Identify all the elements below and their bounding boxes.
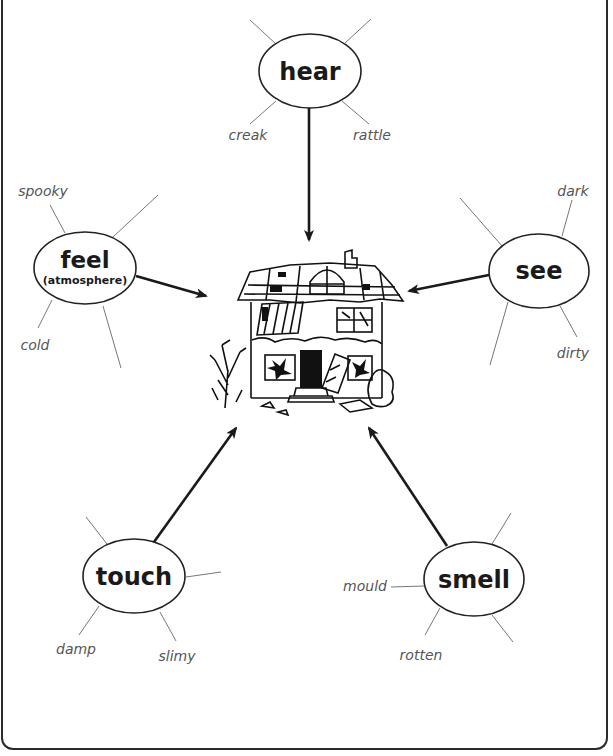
spoke	[113, 195, 158, 237]
spoke	[250, 101, 276, 124]
leaf-cold: cold	[20, 337, 49, 353]
roof-hole	[270, 285, 282, 292]
spoke	[345, 19, 371, 43]
broken-glass	[352, 359, 370, 378]
spoke	[425, 608, 440, 635]
spoke	[250, 20, 276, 44]
node-title-touch: touch	[96, 563, 172, 591]
spoke	[103, 306, 121, 368]
left-plant	[210, 340, 246, 408]
node-title-feel: feel	[60, 247, 109, 273]
ivy	[252, 337, 382, 344]
leaf-creak: creak	[229, 127, 269, 143]
arrow-smell-to-house	[369, 428, 447, 546]
leaf-dirty: dirty	[557, 345, 590, 361]
leaf-rotten: rotten	[400, 647, 443, 663]
broken-glass	[267, 358, 292, 380]
steps	[288, 388, 334, 402]
spoke	[492, 615, 513, 642]
spoke	[492, 513, 511, 544]
node-smell: smell mould rotten	[343, 513, 524, 663]
open-door-panel	[322, 354, 350, 393]
window-cracks	[337, 308, 372, 332]
leaf-mould: mould	[343, 578, 387, 594]
spoke	[342, 101, 369, 124]
roof-hole	[278, 272, 286, 277]
attic-window-panes	[310, 266, 344, 294]
spoke	[86, 517, 107, 544]
node-subtitle-feel: (atmosphere)	[43, 274, 127, 287]
node-touch: touch damp slimy	[56, 517, 221, 664]
spoke	[160, 612, 176, 641]
spoke	[391, 586, 424, 587]
node-title-hear: hear	[279, 58, 341, 86]
spoke	[186, 572, 221, 577]
spoke	[50, 205, 65, 233]
spoke	[562, 200, 572, 236]
haunted-house-illustration	[210, 250, 403, 415]
spoke	[560, 306, 577, 337]
node-title-smell: smell	[438, 566, 510, 594]
leaf-damp: damp	[56, 641, 96, 657]
roof-hole	[363, 284, 370, 290]
node-title-see: see	[516, 257, 563, 285]
right-bush	[368, 370, 393, 407]
leaf-spooky: spooky	[18, 183, 68, 199]
roof	[238, 263, 403, 303]
arrow-touch-to-house	[154, 428, 236, 542]
senses-mind-map: hear creak rattle feel (atmosphere) spoo…	[0, 0, 613, 756]
arrow-feel-to-house	[136, 276, 206, 296]
window-dark	[262, 307, 268, 321]
spoke	[79, 606, 99, 635]
leaf-slimy: slimy	[159, 648, 197, 664]
leaf-rattle: rattle	[353, 127, 391, 143]
leaf-dark: dark	[557, 183, 589, 199]
shutter-slats	[264, 302, 296, 334]
door	[300, 350, 322, 388]
arrow-see-to-house	[409, 275, 489, 291]
spoke	[38, 300, 52, 328]
node-see: see dark dirty	[460, 183, 590, 365]
spoke	[460, 198, 502, 246]
spoke	[490, 302, 508, 365]
